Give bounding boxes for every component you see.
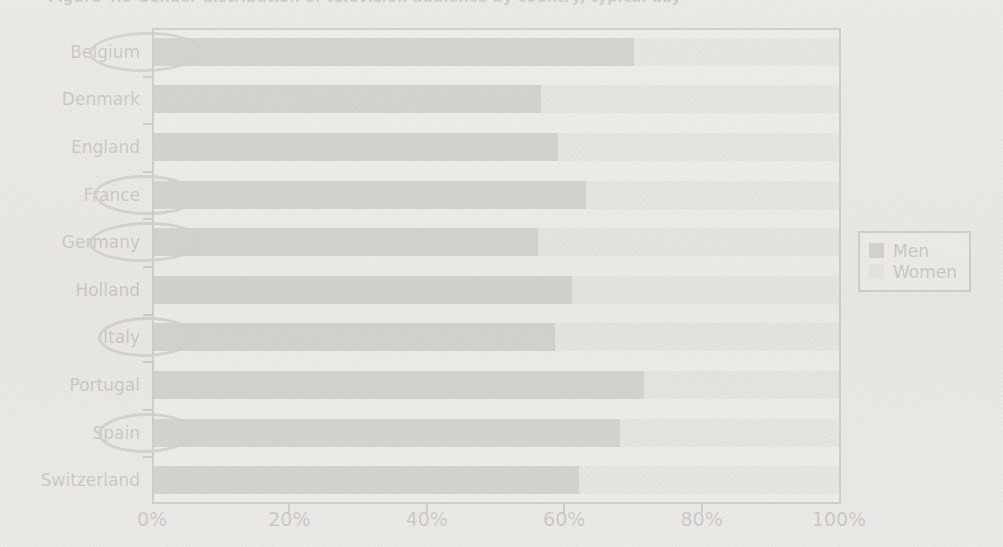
bar-row [154, 466, 839, 494]
bar-segment-men [154, 85, 541, 113]
x-axis-label-60: 60% [543, 508, 585, 530]
bar-segment-women [579, 466, 839, 494]
y-axis-label-holland: Holland [0, 281, 148, 299]
legend-swatch-women-icon [869, 264, 884, 279]
x-axis-label-0: 0% [137, 508, 167, 530]
y-axis-label-italy: Italy [0, 328, 148, 346]
y-axis-tick [143, 123, 154, 125]
bar-segment-men [154, 466, 579, 494]
bar-segment-men [154, 228, 538, 256]
bar-segment-women [620, 419, 839, 447]
bar-segment-women [644, 371, 839, 399]
bar-row [154, 323, 839, 351]
y-axis-tick [143, 266, 154, 268]
bar-segment-men [154, 276, 572, 304]
bar-segment-women [555, 323, 839, 351]
bar-segment-men [154, 38, 634, 66]
y-axis-label-switzerland: Switzerland [0, 471, 148, 489]
bar-segment-women [634, 38, 840, 66]
bar-segment-women [558, 133, 839, 161]
bar-segment-men [154, 371, 644, 399]
y-axis-label-denmark: Denmark [0, 90, 148, 108]
legend-label-men: Men [893, 242, 929, 260]
bar-segment-men [154, 181, 586, 209]
bar-row [154, 276, 839, 304]
x-axis-label-20: 20% [268, 508, 310, 530]
y-axis-label-belgium: Belgium [0, 43, 148, 61]
bar-segment-men [154, 133, 558, 161]
figure-title-text: Figure 4.5 Gender distribution of televi… [48, 0, 988, 5]
y-axis-tick [143, 456, 154, 458]
stacked-bar-chart: Figure 4.5 Gender distribution of televi… [0, 0, 1003, 547]
y-axis-tick [143, 171, 154, 173]
y-axis-tick [143, 409, 154, 411]
y-axis-label-germany: Germany [0, 233, 148, 251]
bar-segment-men [154, 323, 555, 351]
legend-swatch-men-icon [869, 243, 884, 258]
bar-segment-women [572, 276, 839, 304]
bar-row [154, 181, 839, 209]
legend-item-women: Women [869, 261, 957, 282]
y-axis-label-portugal: Portugal [0, 376, 148, 394]
figure-title: Figure 4.5 Gender distribution of televi… [48, 0, 988, 5]
y-axis-label-spain: Spain [0, 424, 148, 442]
bar-row [154, 38, 839, 66]
bar-segment-women [541, 85, 839, 113]
bar-row [154, 371, 839, 399]
legend-item-men: Men [869, 240, 957, 261]
y-axis-label-france: France [0, 186, 148, 204]
x-axis-label-40: 40% [406, 508, 448, 530]
y-axis-tick [143, 314, 154, 316]
bar-row [154, 85, 839, 113]
bar-segment-women [538, 228, 839, 256]
bar-row [154, 419, 839, 447]
x-axis-label-80: 80% [680, 508, 722, 530]
plot-area [152, 28, 841, 504]
bar-row [154, 133, 839, 161]
bar-segment-women [586, 181, 839, 209]
chart-legend: Men Women [858, 231, 971, 292]
legend-label-women: Women [893, 263, 957, 281]
y-axis-tick [143, 76, 154, 78]
y-axis-tick [143, 361, 154, 363]
bar-segment-men [154, 419, 620, 447]
x-axis-label-100: 100% [812, 508, 866, 530]
bar-row [154, 228, 839, 256]
y-axis-label-england: England [0, 138, 148, 156]
y-axis-tick [143, 218, 154, 220]
